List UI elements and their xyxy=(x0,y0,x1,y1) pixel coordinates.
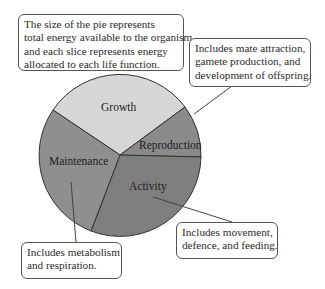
callout-line: Includes movement, xyxy=(182,226,272,239)
callout-line: development of offspring. xyxy=(195,69,305,82)
label-maintenance: Maintenance xyxy=(49,155,108,167)
callout-line: gamete production, and xyxy=(195,55,305,68)
callout-overview: The size of the pie represents total ene… xyxy=(18,14,184,71)
label-reproduction: Reproduction xyxy=(139,139,202,151)
callout-line: Includes mate attraction, xyxy=(195,42,305,55)
callout-line: allocated to each life function. xyxy=(24,58,178,71)
callout-line: and respiration. xyxy=(27,259,116,272)
callout-activity: Includes movement, defence, and feeding. xyxy=(176,222,278,259)
leader-reproduction xyxy=(194,86,232,114)
label-growth: Growth xyxy=(101,101,136,113)
callout-line: The size of the pie represents xyxy=(24,18,178,31)
callout-reproduction: Includes mate attraction, gamete product… xyxy=(189,38,311,87)
callout-maintenance: Includes metabolism and respiration. xyxy=(21,242,122,279)
callout-line: and each slice represents energy xyxy=(24,45,178,58)
label-activity: Activity xyxy=(129,180,167,192)
callout-line: Includes metabolism xyxy=(27,246,116,259)
callout-line: total energy available to the organism, xyxy=(24,31,178,44)
callout-line: defence, and feeding. xyxy=(182,239,272,252)
